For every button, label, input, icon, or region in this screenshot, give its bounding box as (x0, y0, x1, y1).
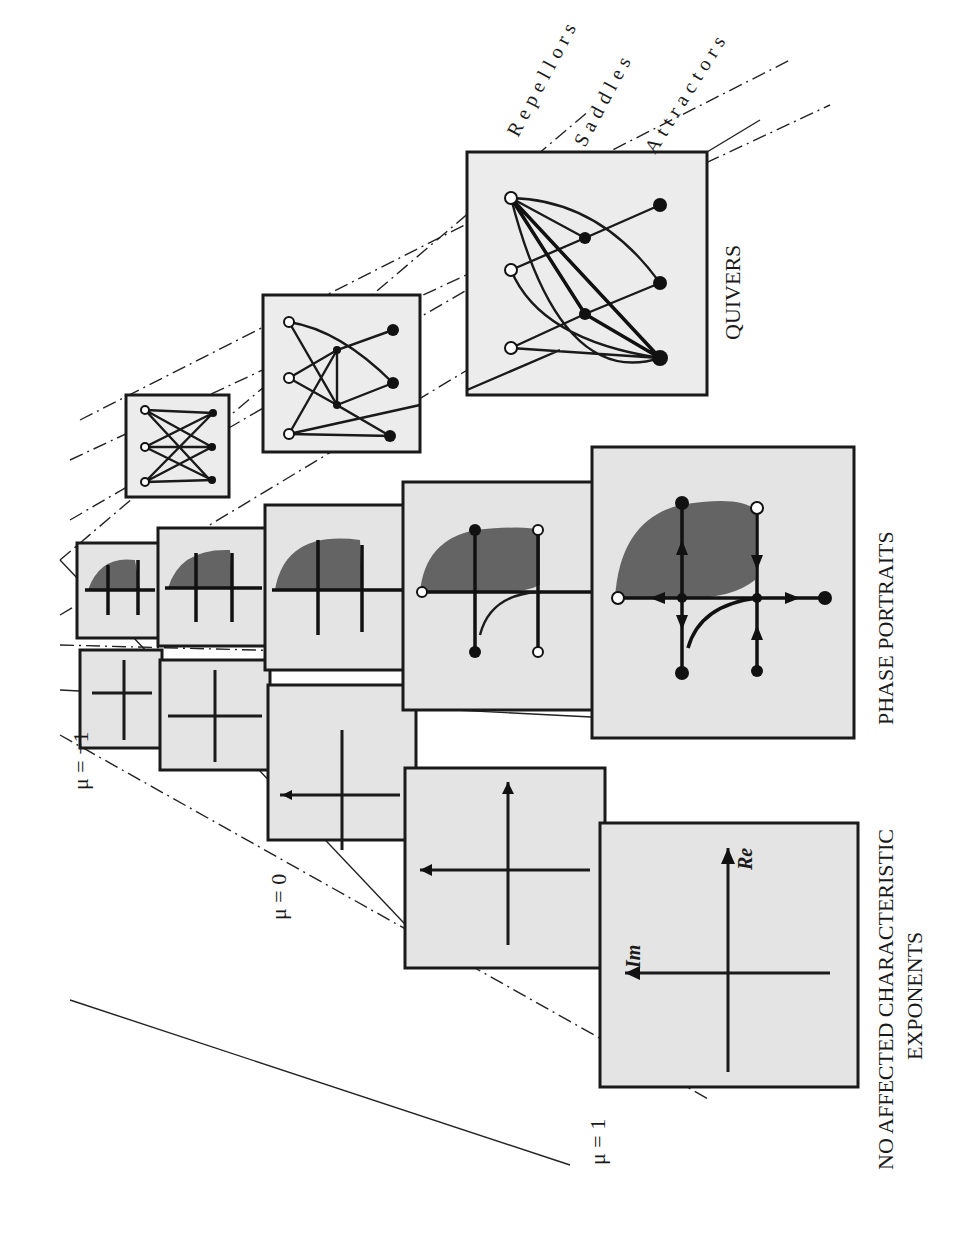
attractor-node (751, 665, 763, 677)
repellor-node (505, 264, 517, 276)
saddle-node (579, 308, 591, 320)
saddle-node (677, 593, 687, 603)
attractor-node (675, 666, 689, 680)
saddle-node (752, 593, 762, 603)
attractor-node (675, 496, 689, 510)
parameter-label-mu-1: μ = 1 (585, 1119, 610, 1165)
repellor-node (751, 502, 763, 514)
parameter-label-mu-0: μ = 0 (266, 874, 291, 920)
repellor-node (612, 592, 624, 604)
attractor-node (652, 350, 668, 366)
quiver-panel-1 (467, 152, 707, 395)
real-axis-label: Re (734, 848, 756, 871)
attractor-node (818, 591, 832, 605)
row-label-exponents-line2: EXPONENTS (902, 932, 927, 1060)
bifurcation-diagram: Re Im (0, 0, 964, 1252)
attractor-node (653, 198, 667, 212)
attractor-node (653, 276, 667, 290)
parameter-label-mu-neg1: μ = −1 (68, 731, 93, 790)
row-label-quivers: QUIVERS (720, 245, 745, 340)
imaginary-axis-label: Im (622, 945, 644, 969)
exponent-panel-2 (405, 768, 605, 968)
legend-saddles: Saddles (569, 48, 637, 150)
repellor-node (505, 342, 517, 354)
repellor-node (505, 192, 517, 204)
row-label-phase-portraits: PHASE PORTRAITS (873, 531, 898, 725)
row-label-exponents-line1: NO AFFECTED CHARACTERISTIC (873, 829, 898, 1170)
saddle-node (579, 232, 591, 244)
quivers-row (126, 120, 760, 497)
legend-attractors: Attractors (640, 27, 733, 157)
phase-panel-2 (403, 482, 613, 710)
legend-repellors: Repellors (502, 14, 584, 140)
